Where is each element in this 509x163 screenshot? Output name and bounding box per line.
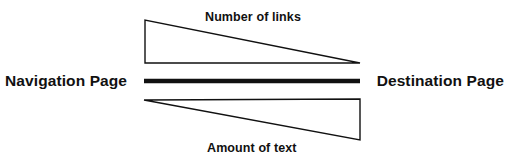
amount-of-text-label: Amount of text bbox=[207, 142, 297, 155]
number-of-links-label: Number of links bbox=[205, 11, 301, 24]
navigation-page-label: Navigation Page bbox=[5, 73, 127, 89]
amount-of-text-triangle bbox=[144, 99, 360, 140]
destination-page-label: Destination Page bbox=[377, 73, 504, 89]
navigation-destination-diagram: Navigation Page Destination Page Number … bbox=[0, 0, 509, 163]
number-of-links-triangle bbox=[145, 20, 360, 63]
